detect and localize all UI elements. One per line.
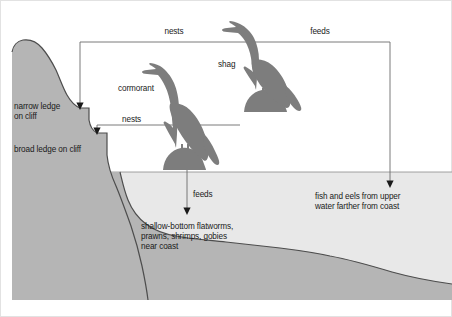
label-narrow-ledge-line1: narrow ledge [14, 102, 60, 112]
label-nests-lower: nests [122, 115, 141, 125]
label-cormorant: cormorant [118, 84, 154, 94]
label-deep-prey-line2: water farther from coast [315, 202, 399, 212]
label-shallow-prey-line2: prawns, shrimps, gobies [141, 232, 227, 242]
label-narrow-ledge-line2: on cliff [14, 112, 37, 122]
habitat-cross-section-svg [0, 0, 452, 317]
label-deep-prey-line1: fish and eels from upper [315, 192, 400, 202]
label-nests-top: nests [124, 27, 224, 37]
diagram-canvas: nests feeds shag cormorant nests narrow … [0, 0, 452, 317]
label-feeds-lower: feeds [193, 190, 213, 200]
label-broad-ledge: broad ledge on cliff [14, 145, 81, 155]
label-feeds-top: feeds [270, 27, 370, 37]
label-shallow-prey-line3: near coast [141, 242, 178, 252]
label-shallow-prey-line1: shallow-bottom flatworms, [141, 222, 233, 232]
label-shag: shag [218, 60, 235, 70]
